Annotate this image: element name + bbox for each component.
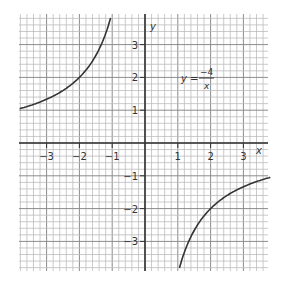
x-tick-label: 3: [240, 151, 246, 162]
x-axis-label: x: [255, 145, 262, 156]
equation-numerator: −4: [200, 67, 214, 77]
x-tick-label: −3: [39, 151, 54, 162]
x-tick-label: 1: [175, 151, 181, 162]
x-tick-label: −2: [72, 151, 87, 162]
equation-lhs: y =: [180, 73, 198, 84]
hyperbola-chart: −3−2−1123321−1−2−3 x y y = −4 x: [0, 0, 282, 286]
y-tick-label: 2: [132, 72, 138, 83]
equation-denominator: x: [203, 81, 210, 91]
y-tick-label: 3: [132, 40, 138, 51]
y-tick-label: −2: [123, 204, 138, 215]
y-axis-label: y: [149, 21, 157, 32]
x-tick-label: −1: [105, 151, 120, 162]
y-tick-label: −3: [123, 236, 138, 247]
x-tick-label: 2: [207, 151, 213, 162]
y-tick-label: −1: [123, 171, 138, 182]
y-tick-label: 1: [132, 105, 138, 116]
